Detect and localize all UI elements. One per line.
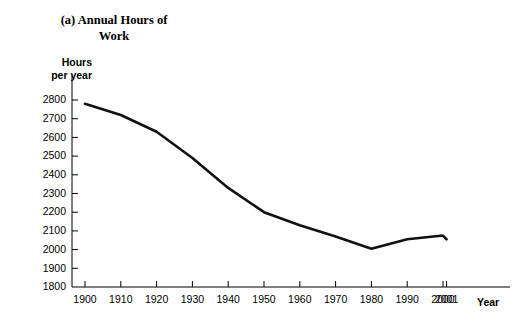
- x-tick-label: 1960: [288, 293, 312, 305]
- y-tick-label: 2600: [43, 131, 67, 143]
- x-tick-label: 1930: [181, 293, 205, 305]
- x-tick-label: 1970: [324, 293, 348, 305]
- plot-area: 2800270026002500240023002200210020001900…: [0, 0, 527, 326]
- x-tick-label: 1900: [73, 293, 97, 305]
- y-tick-label: 2000: [43, 243, 67, 255]
- x-tick-label: 1990: [396, 293, 420, 305]
- y-axis: 2800270026002500240023002200210020001900…: [43, 75, 78, 292]
- y-tick-label: 2500: [43, 149, 67, 161]
- y-tick-label: 2800: [43, 93, 67, 105]
- y-tick-label: 2700: [43, 112, 67, 124]
- data-line-series-0: [85, 104, 447, 249]
- chart-figure: (a) Annual Hours of Work Hours per year …: [0, 0, 527, 326]
- y-tick-label: 1800: [43, 280, 67, 292]
- x-tick-label: 1910: [109, 293, 133, 305]
- y-tick-label: 2300: [43, 187, 67, 199]
- x-tick-label: 2001: [435, 293, 459, 305]
- x-tick-label: 1950: [252, 293, 276, 305]
- x-axis: 1900191019201930194019501960197019801990…: [72, 281, 510, 305]
- y-tick-label: 2100: [43, 224, 67, 236]
- x-tick-label: 1940: [217, 293, 241, 305]
- x-tick-label: 1980: [360, 293, 384, 305]
- y-tick-label: 1900: [43, 262, 67, 274]
- y-tick-label: 2200: [43, 205, 67, 217]
- x-tick-label: 1920: [145, 293, 169, 305]
- y-tick-label: 2400: [43, 168, 67, 180]
